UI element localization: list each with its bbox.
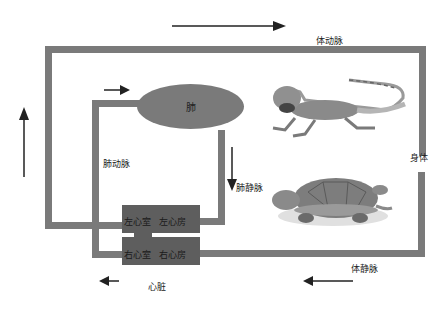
body-label: 身体 xyxy=(410,151,428,164)
systemic-vein-label: 体静脉 xyxy=(351,262,378,275)
ventricle-connector xyxy=(134,230,152,240)
left-ventricle-label: 左心室 xyxy=(124,215,151,228)
arrow-down-icon xyxy=(227,147,237,191)
body-right-lower xyxy=(418,172,425,257)
systemic-artery-label: 体动脉 xyxy=(316,34,343,47)
arrow-left-small-icon xyxy=(99,276,119,286)
right-ventricle-label: 右心室 xyxy=(124,248,151,261)
heart-label: 心脏 xyxy=(148,280,166,293)
lung-label: 肺 xyxy=(186,99,196,114)
lung: 肺 xyxy=(137,84,244,129)
aorta-up xyxy=(218,130,225,225)
systemic-loop-left xyxy=(45,46,52,229)
pulmonary-artery-bottom xyxy=(92,251,124,258)
pulmonary-vein-label: 肺静脉 xyxy=(236,181,263,194)
arrow-left-icon xyxy=(303,276,353,286)
arrow-right-small-icon xyxy=(104,85,130,95)
turtle-image xyxy=(268,170,393,230)
left-atrium-label: 左心房 xyxy=(159,215,186,228)
pulmonary-artery-left xyxy=(92,100,99,258)
pulmonary-artery-label: 肺动脉 xyxy=(103,157,130,170)
systemic-vein-bottom xyxy=(200,250,425,257)
systemic-loop-bottom-left xyxy=(45,222,125,229)
right-atrium-label: 右心房 xyxy=(159,248,186,261)
body-right-upper xyxy=(419,46,426,156)
arrow-right-icon xyxy=(172,20,287,32)
lizard-image xyxy=(265,78,410,138)
systemic-artery-top xyxy=(45,46,425,53)
arrow-up-icon xyxy=(18,107,30,177)
